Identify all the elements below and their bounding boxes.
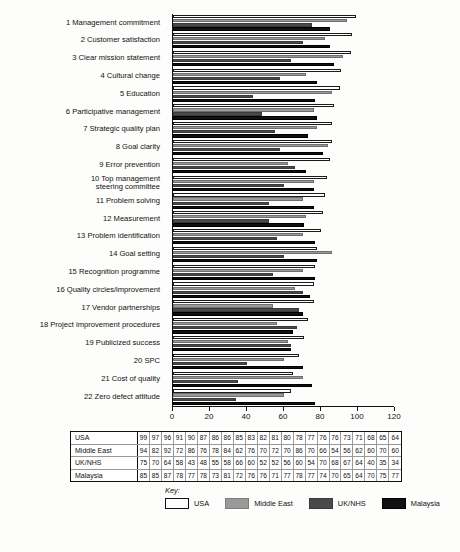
- bar-group: [173, 14, 395, 32]
- bar-middle-east: [173, 55, 343, 58]
- bar-malaysia: [173, 81, 317, 84]
- bar-group: [173, 67, 395, 85]
- bar-group: [173, 210, 395, 228]
- table-cell: 71: [353, 432, 365, 444]
- table-cell: 70: [329, 469, 341, 481]
- table-cell: 78: [197, 469, 209, 481]
- bar-usa: [173, 122, 332, 125]
- bar-malaysia: [173, 45, 330, 48]
- bar-usa: [173, 193, 325, 196]
- x-tick-label: 20: [205, 412, 214, 421]
- bar-malaysia: [173, 116, 317, 119]
- table-cell: 68: [365, 432, 377, 444]
- bar-usa: [173, 69, 341, 72]
- bar-uk-nhs: [173, 291, 303, 294]
- bar-uk-nhs: [173, 273, 273, 276]
- table-row: Middle East94829272867678846276707270867…: [71, 444, 401, 457]
- bar-uk-nhs: [173, 112, 262, 115]
- bar-uk-nhs: [173, 398, 236, 401]
- table-cell: 65: [377, 432, 389, 444]
- table-cell: 85: [233, 432, 245, 444]
- table-cell: 86: [209, 432, 221, 444]
- table-cell: 77: [185, 469, 197, 481]
- table-cell: 83: [245, 432, 257, 444]
- bar-uk-nhs: [173, 95, 253, 98]
- category-label: 6 Participative management: [0, 103, 166, 121]
- table-cell: 86: [185, 444, 197, 457]
- category-label: 9 Error prevention: [0, 157, 166, 175]
- bar-middle-east: [173, 126, 317, 129]
- table-cell: 78: [209, 444, 221, 457]
- table-cell: 94: [138, 444, 150, 457]
- bar-usa: [173, 158, 330, 161]
- table-cell: 55: [209, 457, 221, 470]
- bar-middle-east: [173, 144, 328, 147]
- category-label: 19 Publicized success: [0, 335, 166, 353]
- bar-usa: [173, 372, 293, 375]
- table-cell: 76: [245, 469, 257, 481]
- table-cell: 66: [233, 457, 245, 470]
- bar-malaysia: [173, 295, 310, 298]
- x-tick-label: 120: [387, 412, 400, 421]
- legend-label: Middle East: [254, 499, 293, 508]
- bar-middle-east: [173, 197, 303, 200]
- table-cell: 78: [173, 469, 185, 481]
- x-tick: [320, 407, 321, 411]
- bar-uk-nhs: [173, 326, 297, 329]
- table-cell: 40: [365, 457, 377, 470]
- bar-group: [173, 121, 395, 139]
- bar-malaysia: [173, 27, 330, 30]
- bar-middle-east: [173, 233, 303, 236]
- bar-middle-east: [173, 162, 288, 165]
- bar-middle-east: [173, 91, 332, 94]
- table-cell: 81: [269, 432, 281, 444]
- table-cell: 64: [353, 469, 365, 481]
- legend-swatch-icon: [309, 498, 333, 509]
- x-tick-label: 80: [316, 412, 325, 421]
- legend-label: Malaysia: [411, 499, 440, 508]
- table-cell: 76: [257, 469, 269, 481]
- table-cell: 62: [353, 444, 365, 457]
- table-cell: 91: [173, 432, 185, 444]
- bar-group: [173, 228, 395, 246]
- x-tick-label: 40: [242, 412, 251, 421]
- x-tick: [209, 407, 210, 411]
- data-table: USA9997969190878686858382818078777676737…: [70, 431, 402, 482]
- category-label: 21 Cost of quality: [0, 370, 166, 388]
- table-cell: 96: [161, 432, 173, 444]
- table-cell: 60: [365, 444, 377, 457]
- plot-area: [172, 14, 395, 406]
- bar-middle-east: [173, 358, 284, 361]
- table-row-header: Middle East: [71, 444, 138, 457]
- x-tick: [283, 407, 284, 411]
- table-cell: 58: [221, 457, 233, 470]
- table-cell: 85: [138, 469, 150, 481]
- category-label: 4 Cultural change: [0, 67, 166, 85]
- bar-middle-east: [173, 37, 325, 40]
- bar-uk-nhs: [173, 59, 291, 62]
- table-cell: 75: [377, 469, 389, 481]
- table-cell: 72: [233, 469, 245, 481]
- bar-uk-nhs: [173, 77, 280, 80]
- table-cell: 60: [293, 457, 305, 470]
- bar-malaysia: [173, 277, 315, 280]
- bar-middle-east: [173, 108, 314, 111]
- bar-uk-nhs: [173, 219, 269, 222]
- category-label: 7 Strategic quality plan: [0, 121, 166, 139]
- category-label: 12 Measurement: [0, 210, 166, 228]
- bar-malaysia: [173, 348, 291, 351]
- bar-chart: 1 Management commitment2 Customer satisf…: [0, 0, 460, 420]
- bar-usa: [173, 86, 340, 89]
- bar-malaysia: [173, 206, 314, 209]
- bar-group: [173, 246, 395, 264]
- bar-uk-nhs: [173, 237, 277, 240]
- table-row-header: USA: [71, 432, 138, 444]
- x-tick: [357, 407, 358, 411]
- table-cell: 66: [317, 444, 329, 457]
- table-cell: 65: [341, 469, 353, 481]
- bar-malaysia: [173, 312, 303, 315]
- x-axis: 020406080100120: [172, 406, 394, 413]
- bar-uk-nhs: [173, 308, 299, 311]
- table-cell: 75: [138, 457, 150, 470]
- table-cell: 60: [245, 457, 257, 470]
